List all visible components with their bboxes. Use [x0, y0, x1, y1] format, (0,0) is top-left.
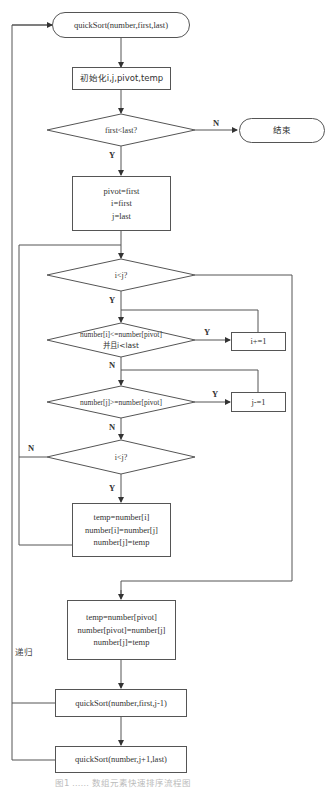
decision-scan-j-label: number[j]>=number[pivot] — [60, 394, 182, 410]
edge-label-first-last-no: N — [213, 118, 219, 128]
assign-process: pivot=first i=first j=last — [72, 176, 171, 231]
end-terminator: 结束 — [239, 118, 325, 143]
edge-label-i-lt-j-1-yes: Y — [109, 295, 115, 305]
edge-label-i-lt-j-2-no: N — [28, 443, 34, 453]
recurse-left-process: quickSort(number,first,j-1) — [55, 689, 187, 717]
figure-caption: 图1 …… 数组元素快速排序流程图 — [55, 776, 285, 788]
edge-label-i-lt-j-2-yes: Y — [109, 483, 115, 493]
swap-pivot-process: temp=number[pivot] number[pivot]=number[… — [67, 600, 176, 660]
dec-j-process: j-=1 — [231, 392, 286, 412]
swap-ij-process: temp=number[i] number[i]=number[j] numbe… — [72, 503, 171, 557]
edge-label-first-last-yes: Y — [109, 150, 115, 160]
recurse-right-process: quickSort(number,j+1,last) — [55, 746, 187, 773]
edge-label-scan-i-yes: Y — [204, 327, 210, 337]
end-label: 结束 — [273, 124, 291, 137]
init-process: 初始化i,j,pivot,temp — [72, 67, 171, 90]
init-label: 初始化i,j,pivot,temp — [80, 72, 163, 85]
edge-label-scan-j-yes: Y — [212, 389, 218, 399]
decision-i-lt-j-2-label: i<j? — [70, 449, 172, 465]
edge-label-recursion: 递归 — [15, 645, 33, 657]
decision-i-lt-j-1-label: i<j? — [70, 267, 172, 283]
start-terminator: quickSort(number,first,last) — [52, 12, 190, 38]
edge-label-scan-i-no: N — [109, 360, 115, 370]
decision-first-last-label: first<last? — [70, 122, 172, 138]
decision-scan-i-label: number[i]<=number[pivot] 并且i<last — [60, 328, 182, 352]
inc-i-process: i+=1 — [231, 332, 286, 351]
edge-label-scan-j-no: N — [109, 422, 115, 432]
start-label: quickSort(number,first,last) — [74, 19, 168, 32]
